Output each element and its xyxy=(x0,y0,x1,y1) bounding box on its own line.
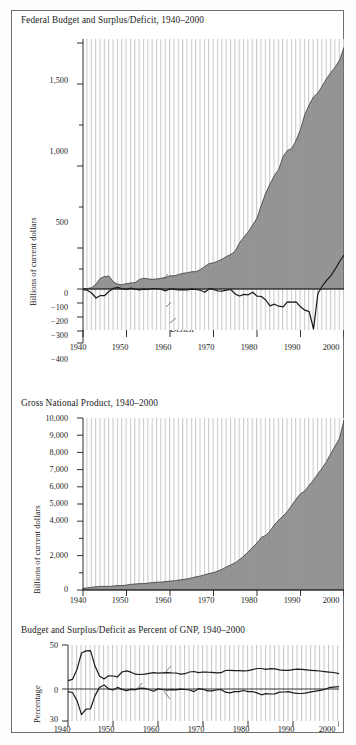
ytick-1500: 1,500 xyxy=(26,76,68,85)
figure-page: Federal Budget and Surplus/Deficit, 1940… xyxy=(0,0,356,745)
ytick-pct-30: 30 xyxy=(30,715,58,724)
ytick-1000: 1,000 xyxy=(26,147,68,156)
ytick-5000: 5,000 xyxy=(20,499,68,508)
panel-gross-national-product: Gross National Product, 1940–2000 Billio… xyxy=(12,396,343,621)
panel-federal-budget: Federal Budget and Surplus/Deficit, 1940… xyxy=(12,11,343,396)
plot-percent-of-gnp xyxy=(58,639,339,731)
ytick-pct-50: 50 xyxy=(30,641,58,650)
ytick-7000: 7,000 xyxy=(20,465,68,474)
ytick-500: 500 xyxy=(26,218,68,227)
panel-title-gnp: Gross National Product, 1940–2000 xyxy=(21,398,158,408)
ytick-0: 0 xyxy=(26,289,68,298)
ytick-neg400: −400 xyxy=(20,355,68,364)
ytick-pct-0: 0 xyxy=(30,686,58,695)
ytick-10000: 10,000 xyxy=(20,414,68,423)
figure-frame: Federal Budget and Surplus/Deficit, 1940… xyxy=(11,10,344,733)
plot-federal-budget xyxy=(69,31,344,351)
ytick-gnp-0: 0 xyxy=(20,585,68,594)
ytick-8000: 8,000 xyxy=(20,448,68,457)
panel-title-federal-budget: Federal Budget and Surplus/Deficit, 1940… xyxy=(21,15,204,25)
ytick-neg100: −100 xyxy=(20,303,68,312)
ytick-4000: 4,000 xyxy=(20,516,68,525)
ytick-neg300: −300 xyxy=(20,331,68,340)
ytick-neg200: −200 xyxy=(20,317,68,326)
ytick-6000: 6,000 xyxy=(20,482,68,491)
panel-percent-of-gnp: Budget and Surplus/Deficit as Percent of… xyxy=(12,621,343,734)
ytick-9000: 9,000 xyxy=(20,431,68,440)
ytick-2000: 2,000 xyxy=(20,551,68,560)
plot-gnp xyxy=(69,413,344,613)
panel-title-percent-of-gnp: Budget and Surplus/Deficit as Percent of… xyxy=(21,625,245,635)
